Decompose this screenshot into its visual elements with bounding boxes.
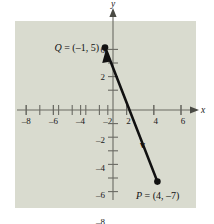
- coordinate-plane-svg: x y –8 –6 –4 –2 2 4 6: [0, 0, 214, 224]
- x-tick-label-4: 4: [153, 116, 158, 126]
- y-tick-label-minus4: –4: [95, 163, 106, 173]
- y-tick-label-minus6: –6: [95, 190, 106, 200]
- x-tick-label-minus6: –6: [48, 116, 59, 126]
- x-axis-label: x: [200, 105, 206, 115]
- x-tick-label-minus8: –8: [21, 116, 32, 126]
- vector-figure: x y –8 –6 –4 –2 2 4 6: [0, 0, 214, 224]
- point-p-label: P = (4, –7): [135, 190, 179, 202]
- y-axis-label: y: [110, 0, 116, 9]
- point-p-name: P: [135, 190, 142, 201]
- point-p-equals: =: [142, 190, 153, 201]
- point-q-label: Q = (–1, 5): [54, 42, 99, 54]
- vector-name-label: v: [140, 139, 145, 150]
- point-q-equals: =: [62, 42, 73, 53]
- point-q-dot: [102, 44, 109, 51]
- y-tick-label-2: 2: [101, 72, 106, 82]
- x-tick-label-minus4: –4: [75, 116, 86, 126]
- y-tick-label-minus2: –2: [95, 135, 105, 145]
- point-p-dot: [154, 178, 161, 185]
- x-tick-label-2: 2: [126, 116, 131, 126]
- x-tick-label-6: 6: [181, 116, 186, 126]
- y-tick-label-minus8: –8: [95, 217, 106, 224]
- point-q-coords: (–1, 5): [72, 42, 99, 54]
- point-p-coords: (4, –7): [153, 190, 180, 202]
- x-tick-label-minus2: –2: [102, 116, 112, 126]
